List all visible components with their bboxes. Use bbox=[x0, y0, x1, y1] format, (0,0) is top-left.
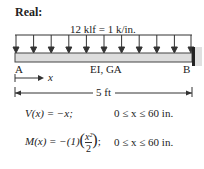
support-a-label: A bbox=[15, 63, 23, 75]
moment-prefix: M(x) = −(1) bbox=[25, 135, 80, 147]
shear-equation: V(x) = −x; bbox=[25, 107, 73, 119]
moment-suffix: ; bbox=[98, 135, 101, 147]
support-b-label: B bbox=[183, 63, 190, 75]
beam-diagram bbox=[0, 0, 204, 100]
distributed-load-arrows bbox=[13, 35, 194, 53]
shear-range: 0 ≤ x ≤ 60 in. bbox=[114, 107, 173, 119]
beam-properties-label: EI, GA bbox=[90, 63, 122, 75]
beam bbox=[15, 53, 192, 62]
moment-range: 0 ≤ x ≤ 60 in. bbox=[114, 136, 173, 148]
fixed-support-wall bbox=[192, 47, 195, 66]
span-label: 5 ft bbox=[96, 86, 111, 98]
moment-equation: M(x) = −(1)(x²2); bbox=[25, 131, 101, 154]
x-axis-arrow bbox=[38, 75, 44, 81]
x-axis-label: x bbox=[48, 71, 53, 83]
